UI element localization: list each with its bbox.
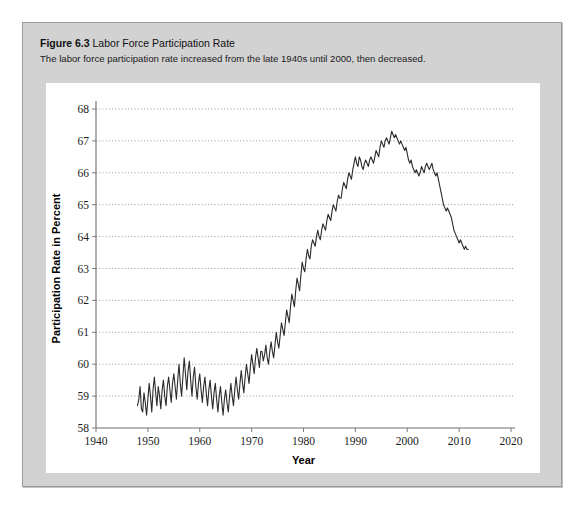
svg-text:63: 63 <box>78 263 90 275</box>
chart-panel: 5859606162636465666768 19401950196019701… <box>46 83 540 473</box>
x-axis-title: Year <box>292 454 316 466</box>
svg-text:2000: 2000 <box>396 435 419 447</box>
figure-caption: Figure 6.3 Labor Force Participation Rat… <box>40 36 540 66</box>
gridlines-group <box>96 109 515 396</box>
svg-text:64: 64 <box>78 231 90 243</box>
participation-rate-line <box>138 131 469 415</box>
svg-text:68: 68 <box>78 103 90 115</box>
svg-text:62: 62 <box>78 294 90 306</box>
svg-text:61: 61 <box>78 326 90 338</box>
svg-text:1950: 1950 <box>136 435 159 447</box>
line-chart: 5859606162636465666768 19401950196019701… <box>46 83 540 473</box>
svg-text:1980: 1980 <box>292 435 315 447</box>
svg-text:2010: 2010 <box>448 435 471 447</box>
svg-text:1990: 1990 <box>344 435 367 447</box>
y-axis-tick-labels: 5859606162636465666768 <box>78 103 90 434</box>
y-axis-title: Participation Rate in Percent <box>50 193 62 343</box>
svg-text:66: 66 <box>78 167 90 179</box>
svg-text:58: 58 <box>78 422 90 434</box>
figure-title: Labor Force Participation Rate <box>93 37 235 49</box>
figure-number: Figure 6.3 <box>40 37 90 49</box>
svg-text:1960: 1960 <box>188 435 211 447</box>
svg-text:2020: 2020 <box>500 435 523 447</box>
figure-card: Figure 6.3 Labor Force Participation Rat… <box>22 22 562 487</box>
figure-subtitle: The labor force participation rate incre… <box>40 52 540 66</box>
svg-text:67: 67 <box>78 135 90 147</box>
svg-text:65: 65 <box>78 199 90 211</box>
x-axis-tick-labels: 194019501960197019801990200020102020 <box>85 435 523 447</box>
svg-text:1970: 1970 <box>240 435 263 447</box>
x-axis-tick-marks <box>96 428 511 432</box>
svg-text:1940: 1940 <box>85 435 108 447</box>
y-axis-tick-marks <box>92 109 96 428</box>
svg-text:60: 60 <box>78 358 90 370</box>
svg-text:59: 59 <box>78 390 90 402</box>
figure-title-line: Figure 6.3 Labor Force Participation Rat… <box>40 36 540 50</box>
